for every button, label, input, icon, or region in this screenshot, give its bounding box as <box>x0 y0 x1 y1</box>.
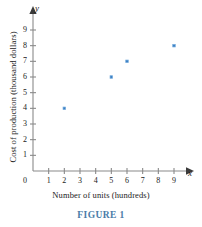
x-tick-label: 3 <box>75 177 85 185</box>
y-tick-label: 8 <box>17 42 27 50</box>
y-axis-title: Cost of production (thousand dollars) <box>8 22 18 172</box>
x-tick-label: 2 <box>59 177 69 185</box>
data-point-marker <box>110 76 113 79</box>
x-tick-label: 6 <box>122 177 132 185</box>
y-tick-label: 5 <box>17 89 27 97</box>
x-tick-label: 9 <box>169 177 179 185</box>
y-tick-label: 1 <box>17 151 27 159</box>
figure-container: 123456789123456789 0 x y Number of units… <box>0 0 202 227</box>
y-tick-label: 2 <box>17 136 27 144</box>
x-tick-label: 4 <box>91 177 101 185</box>
x-tick-label: 7 <box>138 177 148 185</box>
y-tick-label: 4 <box>17 104 27 112</box>
plot-svg <box>0 0 202 200</box>
x-tick-label: 5 <box>106 177 116 185</box>
axes-group <box>29 6 194 175</box>
x-tick-label: 1 <box>44 177 54 185</box>
y-tick-label: 7 <box>17 57 27 65</box>
y-tick-label: 3 <box>17 120 27 128</box>
origin-label: 0 <box>23 177 27 185</box>
y-tick-label: 9 <box>17 26 27 34</box>
data-point-marker <box>126 60 129 63</box>
tick-marks-group <box>30 30 174 174</box>
scatter-plot: 123456789123456789 0 x y Number of units… <box>0 0 202 200</box>
figure-caption: FIGURE 1 <box>0 210 202 220</box>
x-axis-title: Number of units (hundreds) <box>0 190 202 200</box>
x-axis-variable-label: x <box>188 169 192 178</box>
x-tick-label: 8 <box>153 177 163 185</box>
data-points-group <box>63 44 175 109</box>
data-point-marker <box>173 44 176 47</box>
data-point-marker <box>63 107 66 110</box>
y-axis-variable-label: y <box>35 4 39 13</box>
y-tick-label: 6 <box>17 73 27 81</box>
